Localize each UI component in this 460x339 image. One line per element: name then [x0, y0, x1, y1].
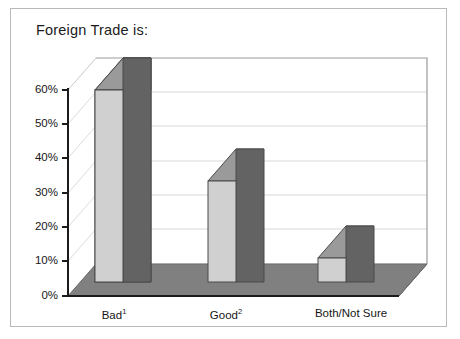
y-tick-label-40: 40% [14, 151, 58, 163]
bar-bad [95, 58, 151, 282]
x-tick-label-bad-text: Bad [102, 309, 122, 321]
chart-canvas [0, 0, 460, 339]
x-tick-label-good-superscript: 2 [238, 307, 242, 316]
x-tick-label-both-not-sure: Both/Not Sure [296, 307, 406, 319]
y-tick-label-50: 50% [14, 117, 58, 129]
x-tick-label-bad: Bad1 [84, 307, 144, 321]
x-tick-label-bad-superscript: 1 [122, 307, 126, 316]
y-tick-label-30: 30% [14, 186, 58, 198]
y-tick-label-0: 0% [14, 289, 58, 301]
y-tick-label-60: 60% [14, 83, 58, 95]
x-tick-label-good: Good2 [196, 307, 256, 321]
y-tick-label-10: 10% [14, 254, 58, 266]
bar-chart-plot: 60% 50% 40% 30% 20% 10% 0% Bad1 Good2 Bo… [0, 0, 460, 339]
x-tick-label-good-text: Good [210, 309, 238, 321]
y-tick-label-20: 20% [14, 220, 58, 232]
x-tick-label-both-not-sure-text: Both/Not Sure [315, 307, 387, 319]
